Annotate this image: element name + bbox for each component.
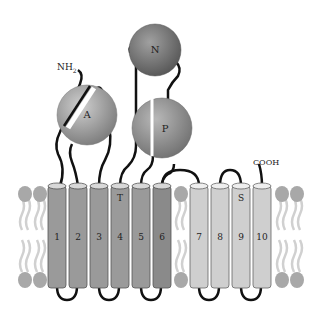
helix-4: T4 <box>111 183 129 288</box>
domain-a: A <box>57 85 117 145</box>
helix-8: 8 <box>211 183 229 288</box>
domain-n: N <box>129 24 181 76</box>
c-terminus-label: COOH <box>253 158 279 167</box>
svg-text:1: 1 <box>54 232 60 242</box>
helix-2: 2 <box>69 183 87 288</box>
helix-3: 3 <box>90 183 108 288</box>
svg-text:9: 9 <box>238 232 244 242</box>
domain-p-label: P <box>162 123 169 134</box>
helix-9: S9 <box>232 183 250 288</box>
svg-text:4: 4 <box>117 232 123 242</box>
helix-4-marker: T <box>117 193 123 203</box>
svg-text:5: 5 <box>138 232 144 242</box>
domain-p: P <box>132 98 192 158</box>
domain-a-label: A <box>82 109 91 120</box>
lipid-bilayer-left <box>18 186 47 288</box>
helix-7: 7 <box>190 183 208 288</box>
svg-text:7: 7 <box>196 232 202 242</box>
domain-n-label: N <box>151 44 160 55</box>
svg-text:2: 2 <box>75 232 81 242</box>
svg-text:10: 10 <box>256 232 268 242</box>
helix-5: 5 <box>132 183 150 288</box>
lipid-bilayer-right <box>275 186 304 288</box>
helix-9-marker: S <box>238 193 244 203</box>
transmembrane-helices: 1 2 3 T4 5 6 7 8 S9 10 <box>48 183 271 288</box>
top-loops <box>162 164 262 186</box>
helix-1: 1 <box>48 183 66 288</box>
n-terminus-label: NH2 <box>57 62 77 74</box>
membrane-protein-topology-diagram: A N P 1 2 3 T4 5 6 7 8 S9 10 NH2 COOH <box>0 0 318 318</box>
helix-10: 10 <box>253 183 271 288</box>
helix-6: 6 <box>153 183 171 288</box>
svg-text:6: 6 <box>159 232 165 242</box>
svg-text:3: 3 <box>96 232 102 242</box>
lipid-bilayer-middle <box>174 186 188 288</box>
svg-text:8: 8 <box>217 232 223 242</box>
